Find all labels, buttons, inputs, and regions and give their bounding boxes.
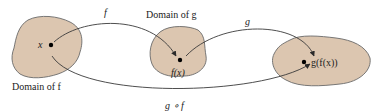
point-gfx [302,60,306,64]
point-x [49,43,53,47]
domain-f-label: Domain of f [12,81,62,92]
arrow-label-gof: g ∘ f [165,100,185,111]
domain-f-region [12,16,82,77]
point-label-fx: f(x) [171,67,186,79]
composition-diagram: x f(x) g(f(x)) Domain of f Domain of g f… [0,0,384,112]
arrow-label-f: f [104,7,108,18]
domain-g-label: Domain of g [146,9,197,20]
arrow-label-g: g [245,16,250,27]
point-label-gfx: g(f(x)) [311,57,338,69]
point-fx [178,58,182,62]
point-label-x: x [37,39,43,50]
